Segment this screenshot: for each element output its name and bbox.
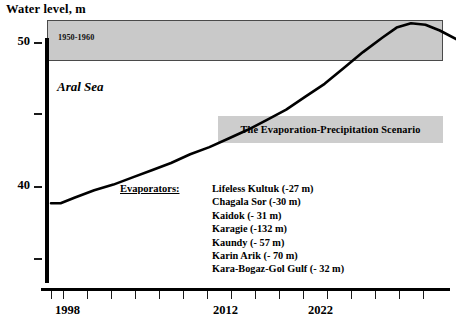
x-tick-11	[303, 291, 304, 299]
x-axis-label-2022: 2022	[308, 303, 333, 318]
evaporators-title: Evaporators:	[120, 183, 180, 194]
x-tick-14	[375, 291, 376, 299]
scenario-box-label: The Evaporation-Precipitation Scenario	[241, 124, 421, 135]
x-tick-13	[351, 291, 352, 299]
x-tick-9	[255, 291, 256, 299]
list-item: Chagala Sor (-30 m)	[212, 195, 344, 208]
y-axis-line	[45, 38, 49, 283]
historical-band-label: 1950-1960	[58, 33, 94, 42]
y-axis-label-50: 50	[6, 34, 30, 49]
x-tick-12	[327, 291, 328, 299]
list-item: Karagie (-132 m)	[212, 222, 344, 235]
x-tick-10	[279, 291, 280, 299]
y-tick-50	[34, 42, 42, 44]
x-tick-8	[231, 291, 232, 299]
list-item: Lifeless Kultuk (-27 m)	[212, 182, 344, 195]
x-axis-label-1998: 1998	[55, 303, 80, 318]
historical-band-1950-1960	[47, 20, 443, 61]
series-label-aral-sea: Aral Sea	[57, 79, 104, 95]
x-tick-3	[111, 291, 112, 299]
x-tick-6	[183, 291, 184, 299]
y-axis-label-40: 40	[6, 178, 30, 193]
list-item: Kara-Bogaz-Gol Gulf (- 32 m)	[212, 262, 344, 275]
x-tick-15	[399, 291, 400, 299]
x-axis-label-2012: 2012	[213, 303, 238, 318]
x-tick-2	[87, 291, 88, 299]
list-item: Kaidok (- 31 m)	[212, 209, 344, 222]
x-tick-0	[51, 291, 52, 299]
scenario-box: The Evaporation-Precipitation Scenario	[218, 116, 443, 143]
x-tick-7	[207, 291, 208, 299]
y-tick-45	[34, 113, 42, 115]
y-tick-40	[34, 186, 42, 188]
chart-title: Water level, m	[6, 2, 86, 17]
x-tick-16	[423, 291, 424, 299]
x-tick-1	[63, 291, 64, 299]
x-axis-line	[41, 288, 450, 291]
water-level-chart: Water level, m 1950-1960 50 40 1998 2012…	[0, 0, 456, 329]
x-tick-5	[159, 291, 160, 299]
evaporators-list: Lifeless Kultuk (-27 m) Chagala Sor (-30…	[212, 182, 344, 276]
list-item: Karin Arik (- 70 m)	[212, 249, 344, 262]
list-item: Kaundy (- 57 m)	[212, 236, 344, 249]
y-tick-35	[34, 258, 42, 260]
x-tick-4	[135, 291, 136, 299]
